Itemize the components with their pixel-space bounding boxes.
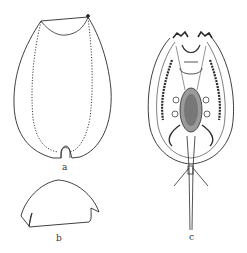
figure-canvas (0, 0, 247, 253)
panel-b-label: b (56, 234, 62, 243)
panel-c-drawing (148, 32, 233, 230)
panel-a-label: a (62, 163, 67, 172)
panel-b-drawing (21, 180, 99, 227)
panel-a-drawing (14, 15, 111, 158)
panel-c-label: c (189, 233, 194, 242)
